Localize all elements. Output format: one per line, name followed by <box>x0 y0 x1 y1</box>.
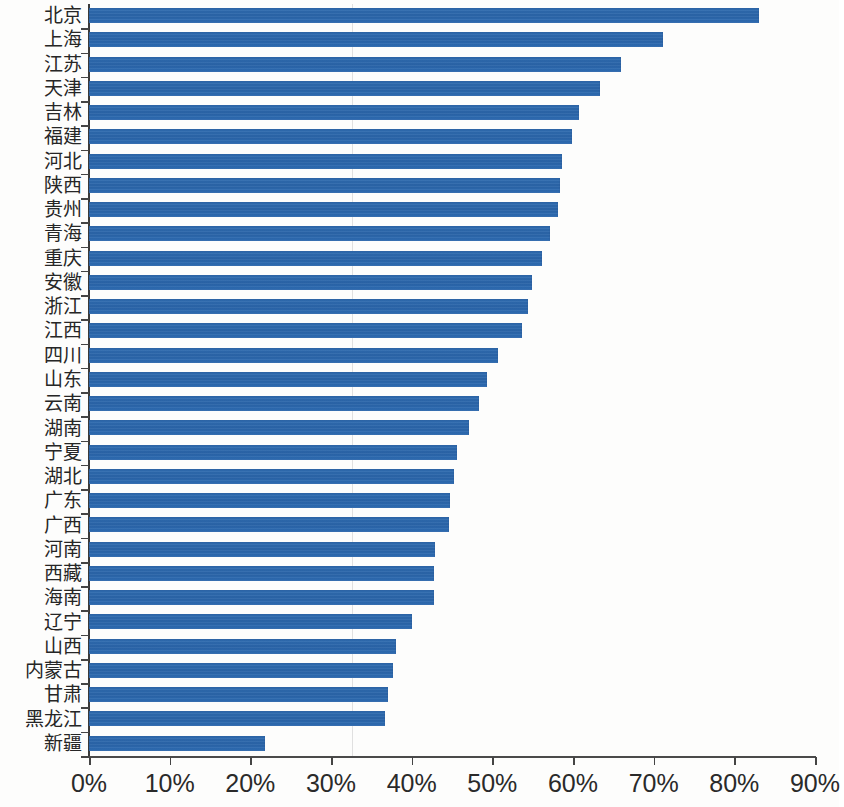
bar <box>89 493 450 508</box>
y-tick <box>81 150 89 152</box>
y-tick <box>81 344 89 346</box>
y-tick <box>81 53 89 55</box>
bar <box>89 711 385 726</box>
bar-row <box>89 441 815 466</box>
x-tick-label: 30% <box>286 769 376 797</box>
y-tick <box>81 198 89 200</box>
bar <box>89 566 434 581</box>
category-label: 四川 <box>2 346 82 365</box>
bar-row <box>89 683 815 708</box>
bar <box>89 590 434 605</box>
x-tick <box>492 757 494 765</box>
bar-row <box>89 416 815 441</box>
bar-row <box>89 586 815 611</box>
bar-row <box>89 174 815 199</box>
bar <box>89 614 412 629</box>
category-label: 辽宁 <box>2 613 82 632</box>
x-tick <box>815 757 817 765</box>
x-tick-label: 20% <box>205 769 295 797</box>
bar <box>89 226 550 241</box>
x-tick-label: 70% <box>609 769 699 797</box>
y-tick <box>81 28 89 30</box>
bar-row <box>89 513 815 538</box>
x-tick-label: 60% <box>528 769 618 797</box>
y-tick <box>81 538 89 540</box>
bar <box>89 469 454 484</box>
bar-row <box>89 125 815 150</box>
category-label: 福建 <box>2 127 82 146</box>
category-label: 陕西 <box>2 176 82 195</box>
category-label: 上海 <box>2 30 82 49</box>
x-tick <box>170 757 172 765</box>
bar-row <box>89 4 815 29</box>
category-label: 云南 <box>2 394 82 413</box>
x-tick-label: 80% <box>689 769 779 797</box>
bar-row <box>89 344 815 369</box>
bar-row <box>89 53 815 78</box>
y-tick <box>81 77 89 79</box>
bar <box>89 517 449 532</box>
category-label: 浙江 <box>2 297 82 316</box>
bar-row <box>89 295 815 320</box>
y-tick <box>81 732 89 734</box>
category-label: 青海 <box>2 224 82 243</box>
category-label: 重庆 <box>2 249 82 268</box>
y-tick <box>81 441 89 443</box>
y-tick <box>81 465 89 467</box>
y-tick <box>81 101 89 103</box>
bar <box>89 663 393 678</box>
bar <box>89 299 528 314</box>
bar <box>89 57 621 72</box>
bar <box>89 542 435 557</box>
bar-row <box>89 368 815 393</box>
y-tick <box>81 416 89 418</box>
bar-row <box>89 707 815 732</box>
category-label: 新疆 <box>2 734 82 753</box>
bar-row <box>89 465 815 490</box>
bar <box>89 81 600 96</box>
category-label: 山东 <box>2 370 82 389</box>
x-tick <box>331 757 333 765</box>
bar <box>89 639 396 654</box>
y-tick <box>81 125 89 127</box>
bar <box>89 445 457 460</box>
x-tick <box>734 757 736 765</box>
category-label: 天津 <box>2 79 82 98</box>
category-label: 湖南 <box>2 419 82 438</box>
bar <box>89 687 388 702</box>
bar <box>89 396 479 411</box>
x-tick-label: 90% <box>770 769 844 797</box>
x-tick <box>250 757 252 765</box>
bar-row <box>89 101 815 126</box>
y-tick <box>81 659 89 661</box>
x-tick <box>412 757 414 765</box>
bar-row <box>89 610 815 635</box>
bar <box>89 372 487 387</box>
x-tick-label: 0% <box>44 769 134 797</box>
bar-row <box>89 319 815 344</box>
bar-row <box>89 150 815 175</box>
category-label: 广东 <box>2 491 82 510</box>
category-label: 山西 <box>2 637 82 656</box>
bar <box>89 202 558 217</box>
y-tick <box>81 610 89 612</box>
y-tick <box>81 513 89 515</box>
category-label: 江苏 <box>2 55 82 74</box>
y-tick <box>81 756 89 758</box>
category-label: 吉林 <box>2 103 82 122</box>
x-tick <box>89 757 91 765</box>
bar <box>89 348 498 363</box>
y-tick <box>81 247 89 249</box>
category-axis-labels: 北京上海江苏天津吉林福建河北陕西贵州青海重庆安徽浙江江西四川山东云南湖南宁夏湖北… <box>0 4 82 756</box>
y-tick <box>81 392 89 394</box>
category-label: 河北 <box>2 152 82 171</box>
category-label: 海南 <box>2 588 82 607</box>
y-tick <box>81 562 89 564</box>
bar-row <box>89 562 815 587</box>
bar-row <box>89 489 815 514</box>
category-label: 内蒙古 <box>2 661 82 680</box>
x-tick <box>573 757 575 765</box>
category-label: 黑龙江 <box>2 710 82 729</box>
x-tick-label: 10% <box>125 769 215 797</box>
